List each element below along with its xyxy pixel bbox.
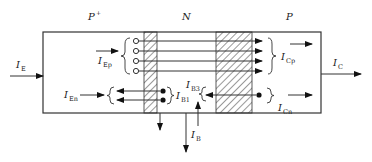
svg-text:B: B — [196, 135, 201, 143]
brace-iep — [121, 38, 130, 74]
region-label-emitter: P + — [87, 9, 101, 22]
electron-flow-ien — [117, 88, 166, 102]
svg-text:En: En — [69, 95, 78, 103]
label-ic: I C — [332, 57, 343, 71]
brace-icp — [268, 38, 276, 74]
svg-text:C: C — [338, 63, 343, 71]
label-icp: I Cp — [280, 51, 295, 65]
electron-icon — [160, 88, 165, 93]
hole-icon — [133, 48, 138, 53]
label-iep: I Ep — [97, 55, 112, 69]
label-ib1: I B1 — [175, 90, 190, 104]
collector-base-junction — [216, 32, 252, 113]
svg-text:P: P — [87, 11, 95, 22]
svg-text:Cn: Cn — [283, 108, 292, 116]
emitter-base-junction — [144, 32, 157, 113]
hole-icon — [133, 38, 138, 43]
label-ib: I B — [190, 129, 201, 143]
transistor-diagram: P + N P I Ep I En I B1 — [0, 0, 372, 162]
svg-text:Ep: Ep — [103, 61, 112, 69]
brace-ib3 — [199, 87, 206, 101]
brace-icn — [267, 88, 274, 103]
brace-ib1 — [167, 87, 174, 104]
hole-icon — [133, 58, 138, 63]
svg-text:E: E — [21, 65, 26, 73]
region-label-base: N — [181, 11, 192, 22]
label-icn: I Cn — [277, 102, 292, 116]
electron-icon — [160, 97, 165, 102]
svg-text:+: + — [96, 9, 101, 16]
hole-icon — [133, 68, 138, 73]
region-label-collector: P — [285, 11, 293, 22]
electron-icon — [256, 92, 261, 97]
label-ien: I En — [63, 89, 78, 103]
label-ib3: I B3 — [185, 79, 200, 93]
svg-text:B1: B1 — [181, 96, 190, 104]
brace-ien — [107, 87, 114, 104]
svg-text:B3: B3 — [191, 85, 200, 93]
svg-text:Cp: Cp — [286, 57, 295, 65]
label-ie: I E — [15, 59, 26, 73]
